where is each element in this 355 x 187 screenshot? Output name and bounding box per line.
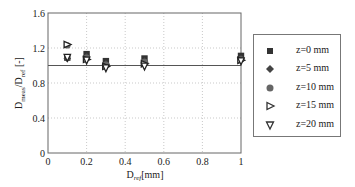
legend-label: z=5 mm [296,62,329,73]
svg-text:1: 1 [239,156,244,167]
legend-label: z=20 mm [296,118,334,129]
x-tick-labels: 00.20.40.60.81 [46,156,244,167]
legend-label: z=0 mm [296,44,329,55]
svg-text:1.2: 1.2 [33,43,46,54]
triangle-right-marker-icon [264,100,276,112]
chart-legend: z=0 mm z=5 mm z=10 mm z=15 mm z=20 mm [253,34,341,137]
y-tick-labels: 00.40.81.21.6 [33,8,46,159]
legend-item-z5: z=5 mm [254,61,340,77]
svg-text:0: 0 [46,156,51,167]
svg-text:0.4: 0.4 [119,156,132,167]
svg-text:0.4: 0.4 [33,113,46,124]
svg-text:1.6: 1.6 [33,8,46,19]
grid-lines [48,13,241,153]
diamond-marker-icon [264,63,276,75]
legend-item-z15: z=15 mm [254,98,340,114]
svg-text:0.8: 0.8 [33,78,46,89]
y-axis-label: Dmeas/Dref [-] [13,57,27,109]
svg-text:0.2: 0.2 [80,156,93,167]
legend-item-z0: z=0 mm [254,43,340,59]
triangle-down-marker-icon [264,119,276,131]
x-axis-label: Dref[mm] [127,169,164,182]
svg-text:0.6: 0.6 [158,156,171,167]
svg-text:0.8: 0.8 [196,156,209,167]
square-marker-icon [264,45,276,57]
legend-label: z=10 mm [296,81,334,92]
legend-item-z10: z=10 mm [254,80,340,96]
legend-item-z20: z=20 mm [254,117,340,133]
circle-marker-icon [264,82,276,94]
legend-label: z=15 mm [296,99,334,110]
svg-text:0: 0 [40,148,45,159]
data-points [64,41,245,72]
